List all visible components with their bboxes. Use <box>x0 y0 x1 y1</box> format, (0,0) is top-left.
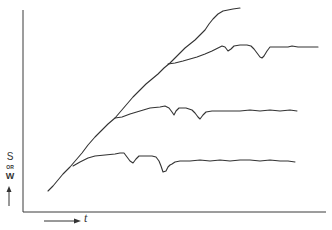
x-arrow-icon <box>44 219 81 224</box>
y-axis-label-w: W <box>4 171 16 181</box>
branch-low-curve <box>73 153 295 172</box>
diagram-canvas <box>0 0 332 230</box>
y-arrow-icon <box>7 186 12 206</box>
branch-high-curve <box>168 45 318 64</box>
branch-mid-curve <box>115 106 297 119</box>
y-axis-label-s: S <box>4 151 16 162</box>
x-axis-label-t: t <box>84 211 87 226</box>
y-axis-label-or: OR <box>4 164 16 170</box>
